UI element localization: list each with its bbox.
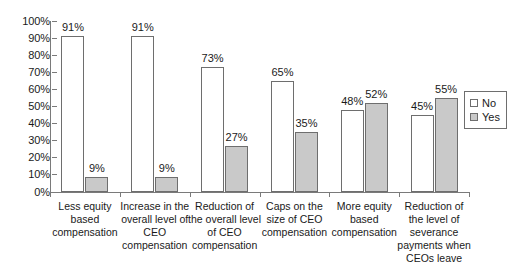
bar-value-label: 52%	[359, 89, 394, 100]
y-axis-tick-label: 30%	[28, 135, 52, 146]
x-axis-separator-tick	[50, 192, 51, 197]
x-axis-category-label-line: based	[326, 213, 402, 226]
x-axis-category-label: Reduction ofthe level ofseverancepayment…	[396, 200, 472, 265]
x-axis-category-label-line: size of CEO	[257, 213, 333, 226]
bar-yes[interactable]	[225, 146, 248, 192]
x-axis-category-label-line: compensation	[326, 226, 402, 239]
legend-item-yes[interactable]: Yes	[470, 110, 500, 124]
x-axis-category-label: Increase in theoverall level ofCEOcompen…	[117, 200, 193, 252]
x-axis-category-label-line: compensation	[47, 226, 123, 239]
x-axis-category-label-line: compensation	[187, 239, 263, 252]
x-axis-category-label-line: severance	[396, 226, 472, 239]
y-axis-tick-label: 20%	[28, 152, 52, 163]
bar-yes[interactable]	[365, 103, 388, 192]
x-axis-category-label-line: compensation	[257, 226, 333, 239]
bar-value-label: 9%	[79, 163, 114, 174]
x-axis-separator-tick	[469, 192, 470, 197]
x-axis-category-label-line: overall level of	[117, 213, 193, 226]
x-axis-category-label-line: based	[47, 213, 123, 226]
x-axis-separator-tick	[329, 192, 330, 197]
legend-swatch-no-icon	[470, 99, 478, 107]
x-axis-separator-tick	[260, 192, 261, 197]
bar-value-label: 9%	[149, 163, 184, 174]
bar-value-label: 35%	[289, 118, 324, 129]
x-axis-category-label-line: compensation	[117, 239, 193, 252]
bar-value-label: 91%	[55, 22, 90, 33]
bar-no[interactable]	[341, 110, 364, 192]
x-axis-separator-tick	[120, 192, 121, 197]
x-axis-category-label-line: Increase in the	[117, 200, 193, 213]
x-axis-category-label-line: Reduction of	[396, 200, 472, 213]
x-axis-category-label: Less equitybasedcompensation	[47, 200, 123, 239]
bar-no[interactable]	[411, 115, 434, 192]
y-axis-tick-label: 90%	[28, 33, 52, 44]
y-axis-tick-label: 80%	[28, 50, 52, 61]
bar-no[interactable]	[201, 67, 224, 192]
x-axis-category-label-line: More equity	[326, 200, 402, 213]
legend-item-no[interactable]: No	[470, 96, 500, 110]
bar-yes[interactable]	[85, 177, 108, 192]
bar-yes[interactable]	[295, 132, 318, 192]
legend: No Yes	[464, 91, 507, 129]
bar-value-label: 27%	[219, 132, 254, 143]
bar-no[interactable]	[271, 81, 294, 192]
y-axis-tick-label: 60%	[28, 84, 52, 95]
x-axis-separator-tick	[399, 192, 400, 197]
x-axis-separator-tick	[190, 192, 191, 197]
bar-value-label: 55%	[429, 84, 464, 95]
x-axis-category-label: Caps on thesize of CEOcompensation	[257, 200, 333, 239]
legend-swatch-yes-icon	[470, 113, 478, 121]
legend-label-no: No	[482, 98, 496, 109]
bar-yes[interactable]	[435, 98, 458, 192]
bar-value-label: 91%	[125, 22, 160, 33]
y-axis-tick-label: 100%	[22, 16, 52, 27]
x-axis-category-label-line: CEOs leave	[396, 252, 472, 265]
y-axis-tick-label: 50%	[28, 101, 52, 112]
x-axis-category-label-line: the level of	[396, 213, 472, 226]
bar-value-label: 73%	[195, 53, 230, 64]
x-axis-category-label-line: Less equity	[47, 200, 123, 213]
legend-label-yes: Yes	[482, 112, 500, 123]
x-axis-category-label-line: the overall level	[187, 213, 263, 226]
y-axis-tick-label: 10%	[28, 169, 52, 180]
bar-chart: 0%10%20%30%40%50%60%70%80%90%100% 91%9%9…	[0, 0, 521, 273]
x-axis-category-label: More equitybasedcompensation	[326, 200, 402, 239]
bar-value-label: 45%	[405, 101, 440, 112]
x-axis-category-label-line: Reduction of	[187, 200, 263, 213]
bar-yes[interactable]	[155, 177, 178, 192]
x-axis-category-label-line: Caps on the	[257, 200, 333, 213]
y-axis-tick-label: 70%	[28, 67, 52, 78]
x-axis-category-label-line: of CEO	[187, 226, 263, 239]
y-axis-tick-label: 40%	[28, 118, 52, 129]
x-axis-category-label-line: CEO	[117, 226, 193, 239]
x-axis-category-label: Reduction ofthe overall levelof CEOcompe…	[187, 200, 263, 252]
x-axis-category-label-line: payments when	[396, 239, 472, 252]
bar-value-label: 65%	[265, 67, 300, 78]
